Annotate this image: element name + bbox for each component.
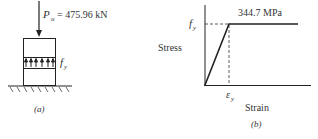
plateau-label: 344.7 MPa — [238, 7, 282, 18]
fy-tick-subscript: y — [192, 24, 197, 32]
load-value: = 475.96 kN — [57, 9, 107, 20]
figure-b: 344.7 MPa f y ε y Stress Strain (b) — [158, 5, 311, 129]
column-outline — [24, 39, 56, 86]
load-arrowhead-icon — [36, 30, 42, 37]
load-subscript: u — [51, 15, 55, 23]
diagram-canvas: P u = 475.96 kN f y (a) 344.7 MPa f y ε … — [0, 0, 318, 139]
ground-hatch — [10, 87, 69, 92]
ey-tick-subscript: y — [230, 95, 235, 103]
load-symbol: P — [42, 8, 50, 20]
figure-a: P u = 475.96 kN f y (a) — [8, 1, 107, 114]
stress-subscript-a: y — [63, 63, 68, 71]
caption-b: (b) — [251, 119, 262, 129]
x-axis-label: Strain — [245, 102, 269, 113]
ey-tick-symbol: ε — [226, 89, 230, 100]
y-axis-label: Stress — [158, 42, 182, 53]
stress-arrows — [25, 59, 55, 68]
stress-strain-curve — [205, 24, 298, 85]
caption-a: (a) — [34, 104, 45, 114]
